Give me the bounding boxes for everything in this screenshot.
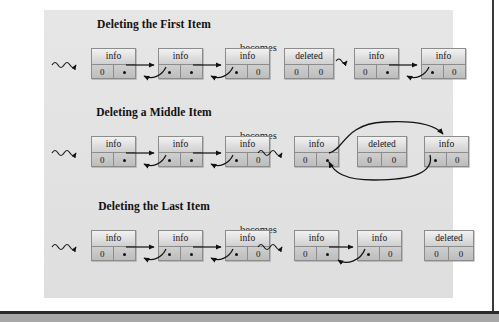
node-data-cell: 0 <box>425 247 449 261</box>
node-fields: 0 <box>92 153 135 167</box>
pointer-dot-icon <box>235 159 238 162</box>
node-pointer-cell <box>181 65 203 79</box>
node-before-3: info 0 <box>225 48 270 79</box>
node-pointer-cell <box>425 153 447 167</box>
pointer-dot-icon <box>123 159 126 162</box>
node-before-2: info <box>158 48 203 79</box>
node-fields: 0 <box>92 65 135 79</box>
node-info-label: info <box>422 49 465 65</box>
pointer-dot-icon <box>123 253 126 256</box>
node-pointer-cell <box>181 247 203 261</box>
node-data-cell: 0 <box>295 247 317 261</box>
node-data-cell: 0 <box>449 247 473 261</box>
node-fields: 0 <box>422 65 465 79</box>
pointer-dot-icon <box>168 159 171 162</box>
node-before-1: info 0 <box>91 230 136 261</box>
node-data-cell: 0 <box>295 153 317 167</box>
node-pointer-cell <box>422 65 444 79</box>
node-pointer-cell <box>159 153 181 167</box>
pointer-dot-icon <box>326 253 329 256</box>
pointer-dot-icon <box>123 71 126 74</box>
node-info-label: info <box>226 231 269 247</box>
pointer-dot-icon <box>168 253 171 256</box>
node-pointer-cell <box>226 247 248 261</box>
pointer-dot-icon <box>434 159 437 162</box>
node-info-label: info <box>92 49 135 65</box>
node-before-2: info <box>158 136 203 167</box>
node-fields: 0 <box>92 247 135 261</box>
node-fields: 0 <box>226 153 269 167</box>
node-fields: 0 <box>295 247 338 261</box>
section-title: Deleting the Last Item <box>44 200 264 212</box>
node-deleted-label: deleted <box>425 231 473 247</box>
node-data-cell: 0 <box>355 65 377 79</box>
node-pointer-cell <box>226 65 248 79</box>
section-deleting-middle-item: Deleting a Middle Item becomes info 0 in… <box>44 106 453 196</box>
node-after-deleted: deleted 0 0 <box>284 48 334 79</box>
node-before-3: info 0 <box>225 136 270 167</box>
node-data-cell: 0 <box>382 153 406 167</box>
node-fields: 0 <box>358 247 401 261</box>
page-border-right <box>492 0 494 313</box>
node-info-label: info <box>295 231 338 247</box>
pointer-dot-icon <box>431 71 434 74</box>
node-pointer-cell <box>159 247 181 261</box>
node-info-label: info <box>226 137 269 153</box>
node-data-cell: 0 <box>248 65 270 79</box>
node-data-cell: 0 <box>248 153 270 167</box>
section-deleting-last-item: Deleting the Last Item becomes info 0 in… <box>44 200 453 288</box>
node-info-label: info <box>425 137 468 153</box>
section-deleting-first-item: Deleting the First Item becomes info 0 i… <box>44 18 453 106</box>
node-pointer-cell <box>114 65 136 79</box>
node-info-label: info <box>355 49 398 65</box>
node-fields: 0 <box>226 65 269 79</box>
page-shadow <box>0 314 499 322</box>
node-fields: 0 0 <box>285 65 333 79</box>
node-info-label: info <box>159 49 202 65</box>
node-data-cell: 0 <box>92 153 114 167</box>
node-info-label: info <box>92 231 135 247</box>
node-fields <box>159 65 202 79</box>
node-after-1: info 0 <box>294 230 339 261</box>
node-pointer-cell <box>358 247 380 261</box>
node-deleted-label: deleted <box>285 49 333 65</box>
node-data-cell: 0 <box>285 65 309 79</box>
node-fields: 0 0 <box>358 153 406 167</box>
node-fields: 0 0 <box>425 247 473 261</box>
head-pointer-wave <box>52 151 76 156</box>
node-before-1: info 0 <box>91 48 136 79</box>
node-fields: 0 <box>226 247 269 261</box>
node-data-cell: 0 <box>92 247 114 261</box>
node-pointer-cell <box>114 247 136 261</box>
node-info-label: info <box>358 231 401 247</box>
node-data-cell: 0 <box>248 247 270 261</box>
node-before-1: info 0 <box>91 136 136 167</box>
head-pointer-wave <box>52 63 76 68</box>
pointer-dot-icon <box>367 253 370 256</box>
head-pointer-wave <box>52 245 76 250</box>
node-deleted-label: deleted <box>358 137 406 153</box>
node-pointer-cell <box>317 247 339 261</box>
node-after-2: info 0 <box>421 48 466 79</box>
node-pointer-cell <box>317 153 339 167</box>
node-data-cell: 0 <box>447 153 469 167</box>
node-before-2: info <box>158 230 203 261</box>
node-data-cell: 0 <box>309 65 333 79</box>
node-fields: 0 <box>295 153 338 167</box>
node-pointer-cell <box>181 153 203 167</box>
node-info-label: info <box>159 231 202 247</box>
pointer-dot-icon <box>235 71 238 74</box>
pointer-dot-icon <box>326 159 329 162</box>
node-pointer-cell <box>377 65 399 79</box>
node-after-1: info 0 <box>294 136 339 167</box>
node-fields: 0 <box>355 65 398 79</box>
node-pointer-cell <box>226 153 248 167</box>
node-data-cell: 0 <box>380 247 402 261</box>
figure-panel: Deleting the First Item becomes info 0 i… <box>44 10 453 298</box>
node-info-label: info <box>295 137 338 153</box>
document-page: Deleting the First Item becomes info 0 i… <box>0 0 499 322</box>
node-before-3: info 0 <box>225 230 270 261</box>
node-pointer-cell <box>114 153 136 167</box>
pointer-dot-icon <box>386 71 389 74</box>
pointer-dot-icon <box>190 71 193 74</box>
